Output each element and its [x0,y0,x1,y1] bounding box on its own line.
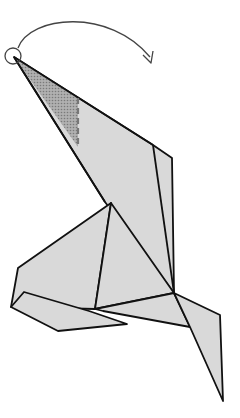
circle-marker-icon [5,48,21,64]
shaded-tip [14,57,78,147]
arrowhead-icon [143,51,153,63]
tail-flipper [174,293,223,401]
curved-arrow-icon [18,22,150,57]
origami-seal-diagram [0,0,240,418]
